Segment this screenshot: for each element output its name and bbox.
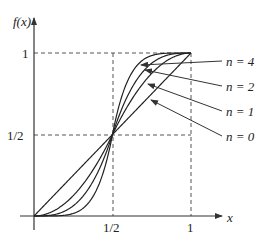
chart: f(x) x 1 1/2 1/2 1 n = 4 n = 2 n = 1 n =… [0, 0, 260, 246]
y-axis-label: f(x) [13, 14, 31, 29]
axes [20, 18, 222, 230]
y-tick-1: 1 [22, 46, 29, 61]
x-tick-1: 1 [187, 220, 194, 235]
x-axis-label: x [226, 210, 233, 225]
legend-n0: n = 0 [226, 129, 255, 144]
x-tick-half: 1/2 [103, 220, 120, 235]
legend-n2: n = 2 [226, 79, 255, 94]
legend-n1: n = 1 [226, 104, 254, 119]
legend-n4: n = 4 [226, 54, 255, 69]
y-tick-half: 1/2 [7, 128, 24, 143]
